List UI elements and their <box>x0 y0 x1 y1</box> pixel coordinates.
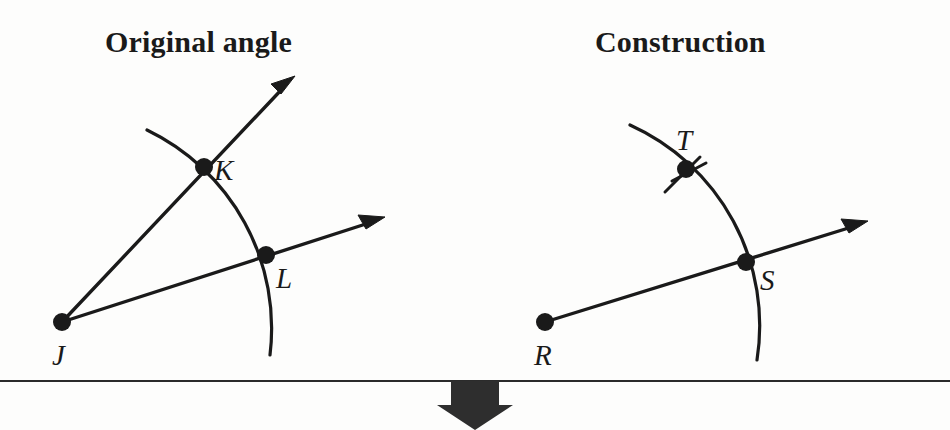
label-l: L <box>275 262 292 294</box>
label-s: S <box>760 264 775 296</box>
point-s <box>737 253 755 271</box>
ray-jk-arrowhead <box>271 76 295 94</box>
panel-construction: Construction T S R <box>533 25 868 371</box>
heading-construction: Construction <box>595 25 766 58</box>
ray-rs-line <box>545 226 855 322</box>
geometry-canvas: Original angle K L J Construction <box>0 0 950 430</box>
label-r: R <box>533 339 552 371</box>
point-j <box>53 313 71 331</box>
panel-original-angle: Original angle K L J <box>52 25 385 371</box>
point-k <box>195 158 213 176</box>
label-k: K <box>213 154 235 186</box>
heading-original-angle: Original angle <box>105 25 292 58</box>
label-t: T <box>676 124 694 156</box>
construction-figure: Original angle K L J Construction <box>0 0 950 430</box>
section-divider <box>0 381 950 430</box>
point-t <box>677 160 695 178</box>
flow-down-arrow-icon <box>437 381 513 430</box>
label-j: J <box>52 339 66 371</box>
point-r <box>536 313 554 331</box>
ray-rs-arrowhead <box>841 219 868 233</box>
point-l <box>257 246 275 264</box>
